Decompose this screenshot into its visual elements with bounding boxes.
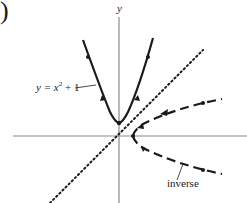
inverse-function-diagram bbox=[0, 0, 247, 203]
parabola-point-left bbox=[86, 55, 90, 59]
parabola-point-right bbox=[146, 55, 150, 59]
inverse-curve-upper bbox=[133, 99, 222, 136]
curve-equation-label: y = x2 + 1 bbox=[36, 80, 79, 93]
curve-equation-prefix: y = x bbox=[36, 81, 59, 93]
inverse-arrow-lower-icon bbox=[141, 146, 146, 152]
inverse-arrow-near-vertex-icon bbox=[137, 123, 144, 129]
inverse-point-lower bbox=[201, 168, 205, 172]
panel-marker: ) bbox=[0, 0, 9, 26]
inverse-point-upper bbox=[201, 101, 205, 105]
parabola-curve bbox=[83, 38, 153, 123]
inverse-curve-lower bbox=[133, 136, 222, 174]
curve-equation-suffix: + 1 bbox=[62, 81, 79, 93]
inverse-label: inverse bbox=[167, 177, 199, 189]
y-axis-label: y bbox=[117, 2, 122, 14]
parabola-vertex-point bbox=[117, 121, 121, 125]
inverse-vertex-point bbox=[131, 134, 135, 138]
